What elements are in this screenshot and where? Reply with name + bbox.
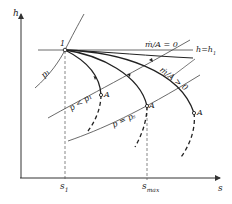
diagram-canvas bbox=[0, 0, 232, 204]
arrow-marker-large bbox=[149, 58, 153, 62]
tick-s1: s1 bbox=[60, 182, 68, 193]
h1-sub: 1 bbox=[213, 50, 216, 56]
state-1-point bbox=[63, 48, 67, 52]
y-axis-label: h bbox=[13, 9, 19, 18]
tick-smax-sub: max bbox=[147, 186, 160, 193]
hs-diagram: h s s1 smax 1 A A A h=h1 ṁ/A = 0 ṁ/A > 0… bbox=[0, 0, 232, 204]
point-A3-label: A bbox=[197, 109, 203, 117]
curve-large-dashed bbox=[181, 113, 194, 157]
curve-mid-dashed bbox=[135, 106, 147, 147]
eq-label: = bbox=[201, 45, 208, 54]
curve-small bbox=[65, 50, 101, 95]
x-axis-label: s bbox=[218, 184, 223, 193]
point-A1 bbox=[99, 93, 102, 96]
tick-smax: smax bbox=[142, 182, 159, 193]
isenthalpic-label: h=h1 bbox=[196, 46, 216, 56]
point-A3 bbox=[192, 111, 195, 114]
state-1-label: 1 bbox=[60, 40, 65, 48]
tick-s1-sub: 1 bbox=[65, 186, 69, 193]
point-A1-label: A bbox=[104, 91, 110, 99]
point-A2-label: A bbox=[149, 102, 155, 110]
mdot-zero-label: ṁ/A = 0 bbox=[145, 41, 178, 49]
